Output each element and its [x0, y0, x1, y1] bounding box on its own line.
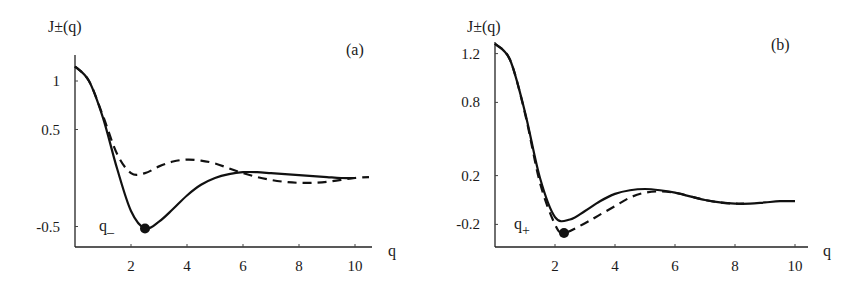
y-tick-label: 1	[53, 73, 61, 89]
y-tick-label: 1.2	[461, 46, 480, 62]
solid-curve	[495, 44, 795, 221]
solid-curve	[75, 66, 355, 228]
annotation-label: q–	[99, 217, 115, 240]
x-tick-label: 8	[295, 258, 303, 274]
minimum-marker	[559, 228, 569, 238]
figure: 24681010.5-0.5J±(q)q(a)q– 2468101.20.80.…	[0, 0, 857, 286]
y-axis-label: J±(q)	[467, 18, 501, 36]
dashed-curve	[495, 44, 744, 233]
panel-b: 2468101.20.80.2-0.2J±(q)q(b)q+	[456, 18, 831, 274]
y-tick-label: 0.5	[41, 122, 60, 138]
y-tick-label: 0.2	[461, 168, 480, 184]
y-tick-label: -0.5	[36, 219, 60, 235]
panel-a: 24681010.5-0.5J±(q)q(a)q–	[36, 18, 396, 274]
x-tick-label: 4	[183, 258, 191, 274]
panel-label: (a)	[346, 41, 364, 59]
x-axis-label: q	[823, 242, 831, 260]
x-tick-label: 10	[348, 258, 363, 274]
x-tick-label: 8	[731, 258, 739, 274]
x-tick-label: 10	[788, 258, 803, 274]
annotation-label: q+	[514, 215, 530, 238]
dashed-curve	[75, 66, 369, 183]
x-tick-label: 6	[239, 258, 247, 274]
panel-label: (b)	[771, 36, 790, 54]
x-tick-label: 2	[127, 258, 135, 274]
x-axis-label: q	[388, 242, 396, 260]
y-tick-label: -0.2	[456, 216, 480, 232]
x-tick-label: 2	[551, 258, 559, 274]
minimum-marker	[140, 223, 150, 233]
x-tick-label: 6	[671, 258, 679, 274]
y-tick-label: 0.8	[461, 94, 480, 110]
y-axis-label: J±(q)	[48, 18, 82, 36]
x-tick-label: 4	[611, 258, 619, 274]
